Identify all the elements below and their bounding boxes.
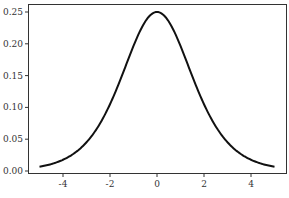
x-axis: -4-2024: [59, 174, 255, 190]
y-tick-label: 0.00: [3, 166, 23, 176]
data-line: [40, 12, 275, 167]
line-chart: 0.000.050.100.150.200.25 -4-2024: [0, 0, 289, 198]
x-tick-label: -4: [59, 179, 68, 189]
x-tick-label: 2: [201, 179, 207, 189]
plot-frame: [29, 5, 287, 174]
y-tick-label: 0.15: [3, 71, 23, 81]
x-tick-label: 4: [248, 179, 254, 189]
y-tick-label: 0.10: [3, 102, 23, 112]
y-tick-label: 0.20: [3, 39, 23, 49]
y-tick-label: 0.25: [3, 7, 23, 17]
x-tick-label: 0: [154, 179, 160, 189]
y-tick-label: 0.05: [3, 134, 23, 144]
y-axis: 0.000.050.100.150.200.25: [3, 7, 29, 176]
x-tick-label: -2: [106, 179, 115, 189]
